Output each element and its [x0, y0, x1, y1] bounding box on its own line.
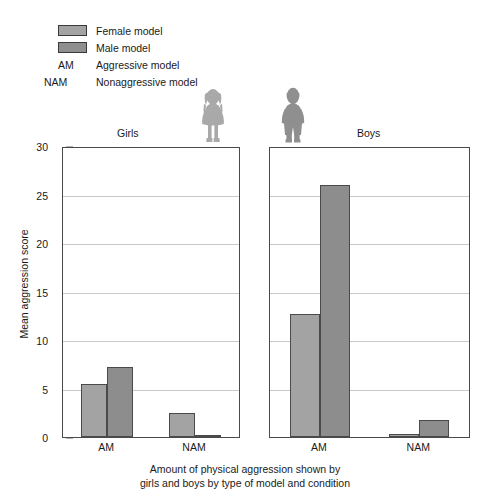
legend-abbr-nam: NAM	[44, 76, 87, 88]
legend-label-am: Aggressive model	[96, 59, 179, 71]
legend-label-female-model: Female model	[96, 25, 163, 37]
y-tick-label-20: 20	[36, 238, 48, 250]
legend-item-male-model: Male model	[58, 39, 198, 56]
legend-item-am: AM Aggressive model	[58, 56, 198, 73]
bar-girls-am-female-model	[81, 384, 107, 437]
bar-boys-am-female-model	[290, 314, 320, 437]
plot-panel-girls	[62, 147, 240, 438]
bar-girls-nam-male-model	[195, 435, 221, 437]
girl-silhouette-icon	[193, 88, 233, 144]
panel-title-boys: Boys	[357, 127, 380, 139]
bar-boys-nam-male-model	[419, 420, 449, 437]
x-tick-label-girls-nam: NAM	[182, 441, 205, 453]
caption-line-2: girls and boys by type of model and cond…	[0, 477, 490, 491]
boy-silhouette-icon	[273, 86, 313, 144]
bar-boys-nam-female-model	[389, 434, 419, 437]
figure-caption: Amount of physical aggression shown by g…	[0, 463, 490, 490]
caption-line-1: Amount of physical aggression shown by	[0, 463, 490, 477]
bars-girls	[63, 148, 239, 437]
legend-swatch-male-model	[58, 42, 87, 53]
bar-boys-am-male-model	[320, 185, 350, 437]
figure-aggression-chart: Female model Male model AM Aggressive mo…	[0, 0, 490, 498]
legend-label-nam: Nonaggressive model	[96, 76, 198, 88]
bar-girls-am-male-model	[107, 367, 133, 437]
legend-abbr-am: AM	[58, 59, 87, 71]
y-tick-label-15: 15	[36, 287, 48, 299]
bar-girls-nam-female-model	[169, 413, 195, 437]
y-axis-ticks: 051015202530	[14, 0, 48, 498]
x-tick-label-boys-am: AM	[311, 441, 327, 453]
chart-legend: Female model Male model AM Aggressive mo…	[58, 22, 198, 90]
y-tick-label-30: 30	[36, 141, 48, 153]
plot-panel-boys	[269, 147, 470, 438]
x-tick-label-boys-nam: NAM	[407, 441, 430, 453]
y-tick-label-10: 10	[36, 335, 48, 347]
x-axis-ticks: AMNAMAMNAM	[0, 441, 490, 457]
panel-title-girls: Girls	[117, 127, 139, 139]
legend-item-nam: NAM Nonaggressive model	[58, 73, 198, 90]
legend-swatch-female-model	[58, 25, 87, 36]
y-tick-label-5: 5	[42, 384, 48, 396]
legend-item-female-model: Female model	[58, 22, 198, 39]
bars-boys	[270, 148, 469, 437]
y-tick-label-25: 25	[36, 190, 48, 202]
legend-label-male-model: Male model	[96, 42, 150, 54]
x-tick-label-girls-am: AM	[98, 441, 114, 453]
